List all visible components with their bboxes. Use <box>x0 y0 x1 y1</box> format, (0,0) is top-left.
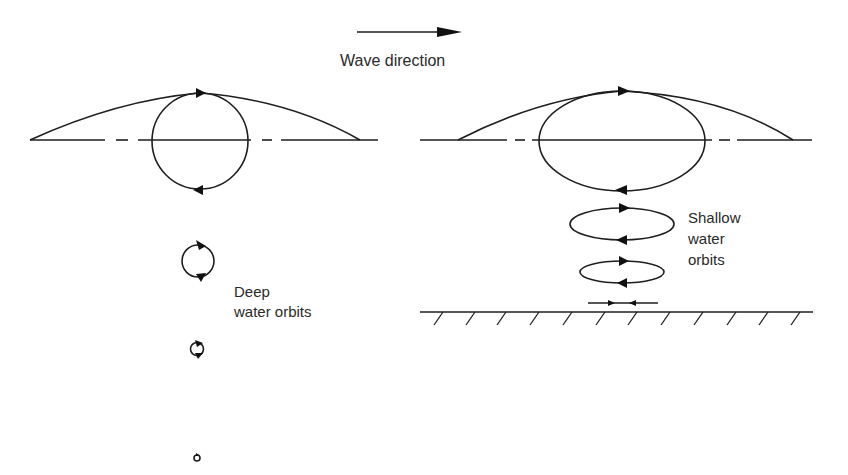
shallow-water-label-line1: Shallow <box>688 207 741 228</box>
shallow-water-panel <box>420 86 813 325</box>
seabed <box>420 312 813 325</box>
wave-direction-arrow-icon <box>357 27 462 37</box>
wave-direction-label: Wave direction <box>340 50 445 71</box>
shallow-orbit-3 <box>580 256 664 288</box>
shallow-water-label-line2: water <box>688 228 725 249</box>
shallow-wave-crest <box>458 91 793 140</box>
deep-water-panel <box>30 88 378 461</box>
deep-water-label-line1: Deep <box>234 282 270 302</box>
deep-orbit-3 <box>191 340 204 359</box>
deep-orbit-2 <box>182 240 214 282</box>
deep-water-label-line2: water orbits <box>234 302 312 322</box>
deep-orbit-1 <box>152 88 248 195</box>
shallow-water-label-line3: orbits <box>688 249 725 270</box>
seabed-oscillation-arrows-icon <box>588 300 658 306</box>
deep-orbit-4 <box>194 453 200 461</box>
deep-wave-crest <box>30 93 360 140</box>
shallow-orbit-2 <box>570 203 674 245</box>
